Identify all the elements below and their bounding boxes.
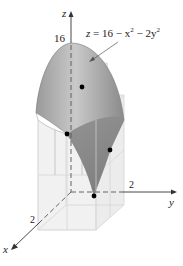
z-axis-label: z <box>62 8 66 19</box>
surface-diagram <box>0 0 183 266</box>
equation-rhs: = 16 − x <box>90 27 130 39</box>
equation-exp2: 2 <box>156 26 160 34</box>
label-pointer-line <box>92 42 118 60</box>
z-tick-16: 16 <box>54 33 65 44</box>
equation-label: z = 16 − x2 − 2y2 <box>86 27 160 39</box>
left-edge-point <box>65 132 70 137</box>
y-axis-label: y <box>169 197 174 208</box>
upper-interior-point <box>80 85 85 90</box>
y-tick-2: 2 <box>129 180 134 190</box>
right-edge-point <box>108 148 113 153</box>
bottom-vertex-point <box>92 194 97 199</box>
equation-mid: − 2y <box>134 27 157 39</box>
x-tick-2: 2 <box>30 215 35 225</box>
x-axis-label: x <box>3 244 8 255</box>
